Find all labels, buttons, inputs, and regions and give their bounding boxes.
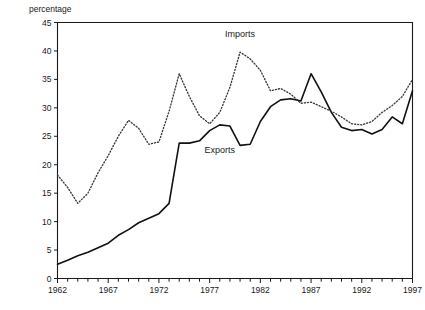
y-tick-label: 45 <box>42 18 52 28</box>
y-tick-label: 25 <box>42 131 52 141</box>
series-line-exports <box>58 74 413 265</box>
y-tick-label: 5 <box>47 245 52 255</box>
series-label-exports: Exports <box>205 145 236 155</box>
data-series-group <box>58 52 413 264</box>
x-axis-ticks: 19621967197219771982198719921997 <box>48 279 422 296</box>
chart-container: 051015202530354045 196219671972197719821… <box>0 0 425 310</box>
x-tick-label: 1962 <box>48 285 67 295</box>
series-annotations: ImportsExports <box>205 29 256 156</box>
y-tick-label: 35 <box>42 74 52 84</box>
series-line-imports <box>58 52 413 203</box>
line-chart: 051015202530354045 196219671972197719821… <box>0 0 425 310</box>
x-tick-label: 1972 <box>149 285 168 295</box>
y-tick-label: 0 <box>47 274 52 284</box>
y-axis-ticks: 051015202530354045 <box>42 18 57 284</box>
x-tick-label: 1987 <box>302 285 321 295</box>
x-tick-label: 1992 <box>352 285 371 295</box>
x-tick-label: 1967 <box>99 285 118 295</box>
y-tick-label: 10 <box>42 217 52 227</box>
x-tick-label: 1997 <box>403 285 422 295</box>
y-tick-label: 30 <box>42 103 52 113</box>
y-tick-label: 40 <box>42 46 52 56</box>
y-axis-title: percentage <box>29 4 72 14</box>
series-label-imports: Imports <box>225 29 256 39</box>
y-tick-label: 20 <box>42 160 52 170</box>
x-tick-label: 1982 <box>251 285 270 295</box>
x-tick-label: 1977 <box>200 285 219 295</box>
y-tick-label: 15 <box>42 188 52 198</box>
